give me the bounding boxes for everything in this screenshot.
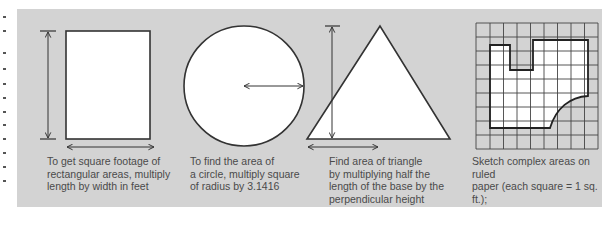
ruled-grid-caption: Sketch complex areas on ruled paper (eac… xyxy=(472,155,602,207)
ruled-grid-figure xyxy=(476,23,598,149)
rectangle-figure xyxy=(40,31,154,147)
circle-caption: To find the area of a circle, multiply s… xyxy=(190,155,300,193)
triangle-figure xyxy=(307,26,450,147)
rectangle-caption: To get square footage of rectangular are… xyxy=(47,155,170,193)
triangle-caption: Find area of triangle by multiplying hal… xyxy=(329,155,444,205)
circle-figure xyxy=(184,26,304,146)
